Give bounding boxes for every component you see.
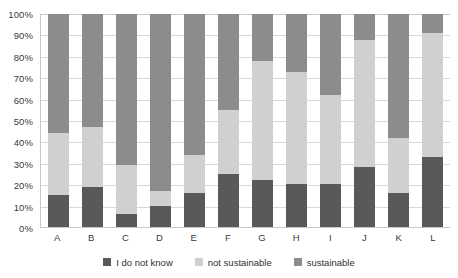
bar-segment xyxy=(388,14,409,138)
bar-segment xyxy=(184,193,205,227)
bar-segment xyxy=(422,33,443,157)
bar-segment xyxy=(422,157,443,227)
bar-segment xyxy=(218,110,239,174)
bar-segment xyxy=(48,133,69,195)
bar-column xyxy=(75,14,109,227)
bar-stack xyxy=(184,14,205,227)
x-tick-label: A xyxy=(40,232,74,243)
bar-stack xyxy=(354,14,375,227)
x-tick-label: E xyxy=(177,232,211,243)
bar-column xyxy=(348,14,382,227)
bar-segment xyxy=(82,14,103,127)
bar-segment xyxy=(184,14,205,155)
x-tick-label: K xyxy=(382,232,416,243)
y-tick-label: 30% xyxy=(14,158,33,169)
bar-segment xyxy=(218,174,239,227)
bar-segment xyxy=(252,14,273,61)
bar-stack xyxy=(218,14,239,227)
bar-segment xyxy=(218,14,239,110)
bar-stack xyxy=(320,14,341,227)
bar-column xyxy=(416,14,450,227)
bar-segment xyxy=(286,14,307,72)
y-tick-label: 40% xyxy=(14,137,33,148)
bar-segment xyxy=(116,165,137,214)
bar-segment xyxy=(48,195,69,227)
x-tick-label: I xyxy=(313,232,347,243)
bar-segment xyxy=(82,127,103,187)
y-tick-label: 80% xyxy=(14,51,33,62)
bar-segment xyxy=(116,14,137,165)
bar-stack xyxy=(82,14,103,227)
y-axis: 0%10%20%30%40%50%60%70%80%90%100% xyxy=(0,14,36,228)
bar-segment xyxy=(150,206,171,227)
bar-stack xyxy=(422,14,443,227)
bar-column xyxy=(382,14,416,227)
bar-segment xyxy=(150,191,171,206)
plot-wrapper: 0%10%20%30%40%50%60%70%80%90%100% ABCDEF… xyxy=(0,0,458,246)
bar-column xyxy=(314,14,348,227)
bar-segment xyxy=(48,14,69,133)
bar-segment xyxy=(388,138,409,193)
bar-column xyxy=(143,14,177,227)
x-tick-label: H xyxy=(279,232,313,243)
legend-label: I do not know xyxy=(116,257,173,268)
stacked-bar-chart: 0%10%20%30%40%50%60%70%80%90%100% ABCDEF… xyxy=(0,0,458,278)
x-tick-label: G xyxy=(245,232,279,243)
x-tick-label: B xyxy=(74,232,108,243)
y-tick-label: 90% xyxy=(14,30,33,41)
x-tick-label: F xyxy=(211,232,245,243)
legend-label: not sustainable xyxy=(208,257,272,268)
bar-segment xyxy=(354,40,375,168)
bar-stack xyxy=(252,14,273,227)
bar-segment xyxy=(252,180,273,227)
bar-segment xyxy=(354,14,375,40)
legend-label: sustainable xyxy=(307,257,355,268)
bar-segment xyxy=(422,14,443,33)
legend-swatch-icon xyxy=(294,258,302,266)
y-tick-label: 70% xyxy=(14,73,33,84)
y-tick-label: 0% xyxy=(19,223,33,234)
bar-stack xyxy=(116,14,137,227)
bar-column xyxy=(41,14,75,227)
y-tick-label: 100% xyxy=(8,9,33,20)
bar-segment xyxy=(150,14,171,191)
bar-segment xyxy=(82,187,103,227)
bar-column xyxy=(177,14,211,227)
bar-segment xyxy=(388,193,409,227)
x-tick-label: L xyxy=(416,232,450,243)
bar-column xyxy=(246,14,280,227)
bar-segment xyxy=(286,72,307,185)
bar-segment xyxy=(286,184,307,227)
bar-column xyxy=(280,14,314,227)
legend-swatch-icon xyxy=(195,258,203,266)
bar-segment xyxy=(252,61,273,180)
bar-column xyxy=(211,14,245,227)
bars-layer xyxy=(41,14,450,227)
x-tick-label: J xyxy=(347,232,381,243)
bar-column xyxy=(109,14,143,227)
legend-item[interactable]: I do not know xyxy=(103,257,173,268)
legend-swatch-icon xyxy=(103,258,111,266)
y-tick-label: 20% xyxy=(14,180,33,191)
legend-item[interactable]: not sustainable xyxy=(195,257,272,268)
bar-stack xyxy=(48,14,69,227)
plot-area xyxy=(40,14,450,228)
bar-segment xyxy=(320,184,341,227)
bar-segment xyxy=(116,214,137,227)
y-tick-label: 50% xyxy=(14,116,33,127)
x-tick-label: D xyxy=(143,232,177,243)
bar-stack xyxy=(286,14,307,227)
x-axis: ABCDEFGHIJKL xyxy=(40,229,450,246)
bar-segment xyxy=(320,14,341,95)
x-tick-label: C xyxy=(108,232,142,243)
y-tick-label: 10% xyxy=(14,201,33,212)
bar-segment xyxy=(184,155,205,193)
bar-segment xyxy=(320,95,341,184)
bar-stack xyxy=(150,14,171,227)
legend-item[interactable]: sustainable xyxy=(294,257,355,268)
bar-stack xyxy=(388,14,409,227)
y-tick-label: 60% xyxy=(14,94,33,105)
chart-legend: I do not knownot sustainablesustainable xyxy=(0,252,458,272)
bar-segment xyxy=(354,167,375,227)
